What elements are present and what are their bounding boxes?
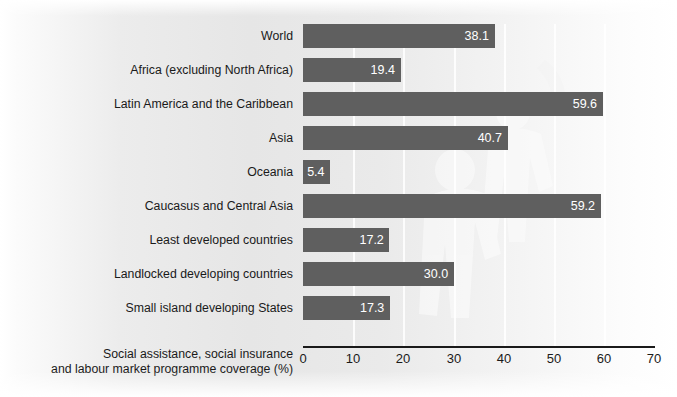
bar-value-asia: 40.7 [478,126,502,150]
x-tick-50: 50 [534,351,574,366]
bar-value-latin-america-and-the-caribbean: 59.6 [573,92,597,116]
bar-value-caucasus-and-central-asia: 59.2 [571,194,595,218]
gridline-20 [403,24,405,346]
bar-value-oceania: 5.4 [307,160,324,184]
category-label-oceania: Oceania [3,160,293,184]
category-label-world: World [3,24,293,48]
gridline-60 [604,24,606,346]
gridline-50 [554,24,556,346]
bar-value-world: 38.1 [465,24,489,48]
category-label-column: World Africa (excluding North Africa) La… [0,24,293,346]
bar-value-africa-excluding-north-africa: 19.4 [371,58,395,82]
bar-value-small-island-developing-states: 17.3 [360,296,384,320]
category-label-africa-excluding-north-africa: Africa (excluding North Africa) [3,58,293,82]
category-label-least-developed-countries: Least developed countries [3,228,293,252]
x-tick-10: 10 [333,351,373,366]
x-tick-30: 30 [434,351,474,366]
bar-value-least-developed-countries: 17.2 [359,228,383,252]
page-top-fade [0,0,677,16]
x-axis-line [303,346,655,348]
category-label-latin-america-and-the-caribbean: Latin America and the Caribbean [3,92,293,116]
chart-figure: World Africa (excluding North Africa) La… [0,0,677,397]
gridline-40 [504,24,506,346]
x-tick-20: 20 [383,351,423,366]
category-label-small-island-developing-states: Small island developing States [3,296,293,320]
plot-area: 38.1 19.4 59.6 40.7 5.4 59.2 17.2 [303,24,655,346]
category-label-landlocked-developing-countries: Landlocked developing countries [3,262,293,286]
page-bottom-fade [0,371,677,397]
bar-caucasus-and-central-asia[interactable] [303,194,601,218]
category-label-caucasus-and-central-asia: Caucasus and Central Asia [3,194,293,218]
x-tick-60: 60 [584,351,624,366]
x-tick-70: 70 [634,351,674,366]
bar-latin-america-and-the-caribbean[interactable] [303,92,603,116]
category-label-asia: Asia [3,126,293,150]
gridline-30 [454,24,456,346]
x-tick-40: 40 [484,351,524,366]
bar-value-landlocked-developing-countries: 30.0 [424,262,448,286]
x-axis-title-line-1: Social assistance, social insurance [0,347,293,362]
